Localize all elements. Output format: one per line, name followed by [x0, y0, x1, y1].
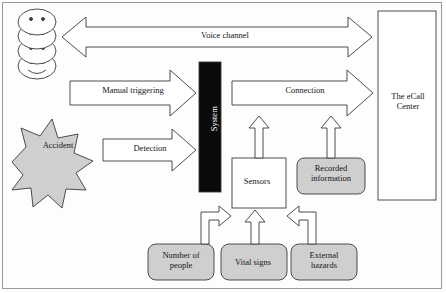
number-of-people-label: Number of people: [150, 251, 212, 270]
diagram-canvas: .s { stroke:#3a3a3a; stroke-width:0.9; }…: [0, 0, 446, 293]
hazards-to-sensors-arrow: [287, 206, 316, 244]
system-label: System: [210, 86, 220, 152]
ecall-center-label: The eCall Center: [381, 92, 435, 111]
sensors-label: Sensors: [228, 177, 286, 187]
detection-label: Detection: [110, 144, 190, 154]
connection-label: Connection: [250, 86, 360, 96]
accident-label: Accident: [18, 141, 98, 151]
vital-to-sensors-arrow: [245, 210, 265, 244]
people-stack-icon: [18, 9, 56, 79]
voice-channel-label: Voice channel: [150, 31, 300, 41]
accident-starburst: [12, 119, 93, 208]
recorded-to-connection-arrow: [321, 116, 341, 158]
vital-signs-label: Vital signs: [222, 258, 284, 268]
external-hazards-label: External hazards: [292, 251, 356, 270]
recorded-information-label: Recorded information: [299, 164, 363, 183]
sensors-to-connection-arrow: [249, 116, 269, 158]
manual-triggering-label: Manual triggering: [78, 86, 188, 96]
people-to-sensors-arrow: [201, 206, 231, 244]
